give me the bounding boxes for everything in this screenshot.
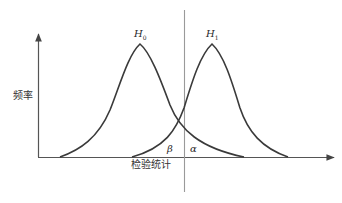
beta-region-label: β: [167, 144, 173, 154]
h0-label-sub: 0: [143, 34, 147, 41]
h1-label-main: H: [206, 28, 215, 39]
h1-distribution-curve: [132, 44, 288, 157]
diagram-canvas: [0, 0, 342, 203]
x-axis-label: 检验统计: [131, 160, 171, 170]
h0-distribution-curve: [60, 44, 244, 157]
h0-label-main: H: [134, 28, 143, 39]
h0-label: H0: [134, 29, 147, 41]
h1-label: H1: [206, 29, 219, 41]
hypothesis-test-diagram: 频率 检验统计 H0 H1 β α: [0, 0, 342, 203]
alpha-region-label: α: [190, 144, 197, 154]
y-axis-label: 频率: [13, 91, 33, 101]
h1-label-sub: 1: [215, 34, 219, 41]
